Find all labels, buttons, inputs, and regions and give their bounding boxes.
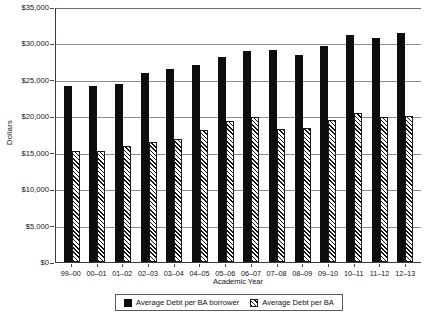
bar-group xyxy=(187,8,213,262)
bar xyxy=(174,139,182,262)
y-axis-tick: $10,000 xyxy=(1,186,49,194)
y-axis-tick: $35,000 xyxy=(1,4,49,12)
plot-area xyxy=(55,8,421,263)
bar-chart: Dollars $35,000$30,000$25,000$20,000$15,… xyxy=(0,0,431,318)
y-axis-tick: $15,000 xyxy=(1,150,49,158)
x-axis-title: Academic Year xyxy=(55,277,421,286)
bar xyxy=(303,128,311,262)
x-tick-mark xyxy=(71,264,72,267)
y-tick-mark xyxy=(50,117,54,118)
y-axis-tick: $30,000 xyxy=(1,40,49,48)
bar xyxy=(97,151,105,262)
bar-group xyxy=(367,8,393,262)
bar xyxy=(200,130,208,262)
y-axis-tick: $20,000 xyxy=(1,113,49,121)
legend-swatch xyxy=(124,299,132,307)
legend-item: Average Debt per BA xyxy=(250,298,334,307)
bar-group xyxy=(162,8,188,262)
bar-group xyxy=(392,8,418,262)
bar xyxy=(328,120,336,262)
bar xyxy=(243,51,251,262)
y-tick-mark xyxy=(50,8,54,9)
x-tick-mark xyxy=(328,264,329,267)
bar xyxy=(115,84,123,262)
chart-legend: Average Debt per BA borrowerAverage Debt… xyxy=(115,294,343,311)
bar xyxy=(354,113,362,262)
bar-group xyxy=(315,8,341,262)
bar xyxy=(320,46,328,262)
x-tick-mark xyxy=(405,264,406,267)
bar xyxy=(405,116,413,262)
legend-label: Average Debt per BA xyxy=(262,298,334,307)
x-tick-mark xyxy=(199,264,200,267)
bar xyxy=(269,50,277,262)
bar xyxy=(141,73,149,262)
y-tick-mark xyxy=(50,190,54,191)
x-tick-mark xyxy=(225,264,226,267)
legend-item: Average Debt per BA borrower xyxy=(124,298,239,307)
bar-group xyxy=(238,8,264,262)
bar xyxy=(251,117,259,262)
y-tick-mark xyxy=(50,226,54,227)
y-axis-tick: $0 xyxy=(1,259,49,267)
bar xyxy=(295,55,303,262)
bar-group xyxy=(136,8,162,262)
bar-group xyxy=(213,8,239,262)
bar-group xyxy=(341,8,367,262)
x-tick-mark xyxy=(174,264,175,267)
y-tick-mark xyxy=(50,44,54,45)
y-tick-mark xyxy=(50,263,54,264)
legend-swatch xyxy=(250,299,258,307)
bar xyxy=(123,146,131,262)
bar xyxy=(346,35,354,262)
x-tick-mark xyxy=(148,264,149,267)
bar-group xyxy=(110,8,136,262)
y-axis-tick: $5,000 xyxy=(1,223,49,231)
bar xyxy=(397,33,405,262)
x-tick-mark xyxy=(97,264,98,267)
x-tick-mark xyxy=(354,264,355,267)
bar xyxy=(226,121,234,262)
x-tick-mark xyxy=(122,264,123,267)
x-tick-mark xyxy=(302,264,303,267)
bar-group xyxy=(85,8,111,262)
bar-group xyxy=(264,8,290,262)
bar xyxy=(89,86,97,262)
x-tick-mark xyxy=(277,264,278,267)
x-tick-mark xyxy=(379,264,380,267)
bar xyxy=(372,38,380,262)
bar-group xyxy=(59,8,85,262)
bar xyxy=(149,142,157,262)
bar xyxy=(277,129,285,262)
bar xyxy=(380,117,388,262)
bar xyxy=(72,151,80,262)
y-axis-tick: $25,000 xyxy=(1,77,49,85)
y-tick-mark xyxy=(50,80,54,81)
bar xyxy=(166,69,174,262)
y-axis-tick-labels: $35,000$30,000$25,000$20,000$15,000$10,0… xyxy=(0,0,55,270)
bar-group xyxy=(290,8,316,262)
y-tick-mark xyxy=(50,153,54,154)
bar xyxy=(192,65,200,262)
bar xyxy=(218,57,226,262)
bar-groups xyxy=(56,8,421,262)
legend-label: Average Debt per BA borrower xyxy=(136,298,239,307)
x-tick-mark xyxy=(251,264,252,267)
bar xyxy=(64,86,72,262)
